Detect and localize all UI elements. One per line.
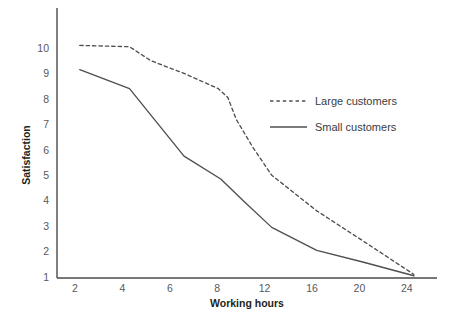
x-axis-title: Working hours [210,297,284,309]
axes [57,8,437,278]
y-axis-tick-label: 10 [37,42,49,54]
y-axis-tick-label: 4 [43,194,49,206]
x-axis-tick-label: 12 [259,282,271,294]
chart-legend: Large customersSmall customers [270,95,397,133]
y-axis-tick-label: 2 [43,245,49,257]
legend-label: Small customers [315,121,397,133]
y-axis-tick-label: 1 [43,271,49,283]
series-lines [80,45,414,275]
y-axis-tick-label: 3 [43,220,49,232]
y-axis-tick-label: 6 [43,144,49,156]
x-axis-tick-label: 24 [401,282,413,294]
x-axis-tick-labels: 246812162024 [72,282,413,294]
y-axis-title: Satisfaction [20,125,32,185]
line-chart: 12345678910 246812162024 Satisfaction Wo… [0,0,453,323]
x-axis-tick-label: 8 [214,282,220,294]
series-line-large-customers [80,45,414,274]
x-axis-tick-label: 20 [354,282,366,294]
x-axis-tick-label: 4 [119,282,125,294]
y-axis-tick-label: 7 [43,118,49,130]
y-axis-tick-label: 8 [43,93,49,105]
x-axis-tick-label: 2 [72,282,78,294]
x-axis-tick-label: 16 [306,282,318,294]
chart-container: 12345678910 246812162024 Satisfaction Wo… [0,0,453,323]
y-axis-tick-label: 5 [43,169,49,181]
y-axis-tick-labels: 12345678910 [37,42,49,283]
legend-label: Large customers [315,95,397,107]
x-axis-tick-label: 6 [167,282,173,294]
y-axis-tick-label: 9 [43,67,49,79]
